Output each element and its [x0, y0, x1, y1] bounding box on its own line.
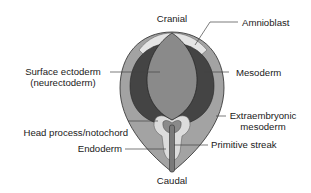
label-cranial: Cranial	[150, 13, 194, 24]
label-surface-ectoderm-line2: (neurectoderm)	[19, 77, 107, 88]
label-endoderm: Endoderm	[60, 143, 122, 154]
label-caudal: Caudal	[150, 175, 194, 186]
label-extraembryonic-line2: mesoderm	[227, 121, 299, 132]
label-surface-ectoderm: Surface ectoderm (neurectoderm)	[19, 66, 107, 88]
label-amnioblast: Amnioblast	[242, 17, 289, 28]
label-extraembryonic-mesoderm: Extraembryonic mesoderm	[227, 110, 299, 132]
label-primitive-streak: Primitive streak	[211, 139, 277, 150]
label-head-process: Head process/notochord	[6, 127, 128, 138]
label-surface-ectoderm-line1: Surface ectoderm	[19, 66, 107, 77]
label-mesoderm: Mesoderm	[236, 67, 281, 78]
primitive-streak-region	[170, 125, 175, 172]
label-extraembryonic-line1: Extraembryonic	[227, 110, 299, 121]
embryonic-disc-diagram	[0, 0, 311, 193]
